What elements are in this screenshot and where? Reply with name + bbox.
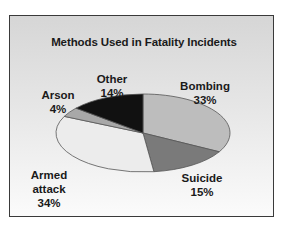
label-bombing: Bombing 33%	[170, 79, 240, 107]
label-armed-attack: Armed attack 34%	[14, 168, 84, 210]
label-other: Other 14%	[92, 72, 132, 100]
label-bombing-value: 33%	[170, 93, 240, 107]
label-arson-value: 4%	[38, 102, 78, 116]
label-suicide: Suicide 15%	[172, 171, 232, 199]
label-armed-attack-name: Armed attack	[14, 168, 84, 196]
label-other-value: 14%	[92, 86, 132, 100]
label-suicide-name: Suicide	[172, 171, 232, 185]
label-other-name: Other	[92, 72, 132, 86]
label-arson: Arson 4%	[38, 88, 78, 116]
label-armed-attack-value: 34%	[14, 196, 84, 210]
label-suicide-value: 15%	[172, 185, 232, 199]
label-arson-name: Arson	[38, 88, 78, 102]
label-bombing-name: Bombing	[170, 79, 240, 93]
